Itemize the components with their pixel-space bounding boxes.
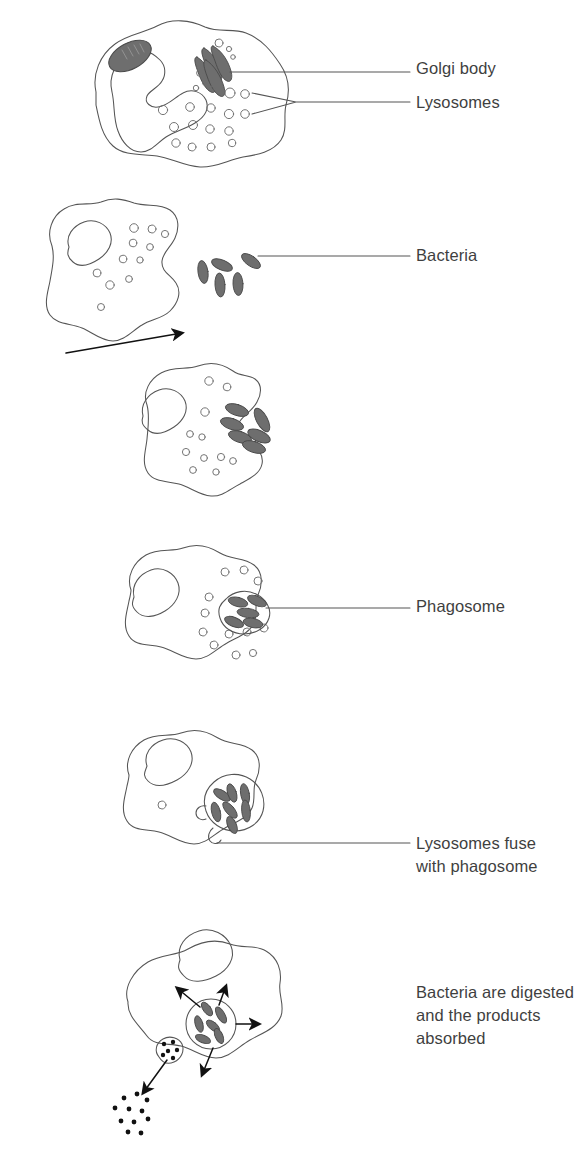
diagram-canvas — [0, 0, 586, 1149]
phagocytosis-diagram: Golgi body Lysosomes Bacteria Phagosome … — [0, 0, 586, 1149]
stage-6-bacteria — [193, 1000, 229, 1045]
label-golgi-body: Golgi body — [416, 57, 496, 80]
label-absorbed: absorbed — [416, 1027, 486, 1050]
fusing-lysosome-1 — [196, 806, 206, 820]
stage-4-bacteria — [223, 593, 268, 630]
stage-3-cell — [142, 364, 262, 497]
stage-2-cell — [46, 199, 178, 341]
stage-2-bacteria — [196, 251, 262, 298]
label-bacteria-digested: Bacteria are digested — [416, 981, 574, 1004]
label-bacteria: Bacteria — [416, 244, 477, 267]
stage-transition-arrow — [66, 333, 182, 353]
label-phagosome: Phagosome — [416, 595, 505, 618]
waste-particles-inside — [161, 1040, 179, 1060]
leader-line-lysosomes — [252, 93, 410, 114]
stage-3-bacteria — [219, 401, 273, 456]
waste-particles-expelled — [113, 1092, 151, 1136]
label-with-phagosome: with phagosome — [416, 855, 538, 878]
fusing-lysosome-2 — [209, 828, 221, 844]
mitochondrion — [104, 34, 157, 79]
free-lysosome — [158, 801, 166, 809]
label-and-the-products: and the products — [416, 1004, 541, 1027]
label-lysosomes: Lysosomes — [416, 91, 500, 114]
stage-4-cell — [125, 546, 269, 659]
stage-1-golgi-body — [195, 46, 232, 97]
stage-5-bacteria — [209, 783, 251, 835]
waste-expulsion-arrow — [143, 1060, 167, 1093]
stage-2-lysosomes — [93, 224, 168, 311]
label-lysosomes-fuse: Lysosomes fuse — [416, 832, 536, 855]
